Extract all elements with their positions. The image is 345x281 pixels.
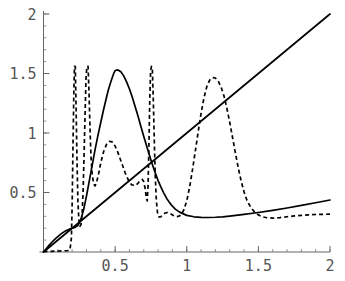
y-tick-label: 1.5 [9,65,36,83]
y-tick-label: 2 [27,6,36,24]
x-axis-tick-labels: 0.511.52 [102,257,335,275]
chart-svg: 0.511.52 0.511.52 [0,0,345,281]
x-tick-label: 0.5 [102,257,129,275]
series-solid-curve [44,70,331,252]
x-tick-label: 2 [325,257,334,275]
y-axis-tick-labels: 0.511.52 [9,6,36,203]
x-tick-label: 1 [182,257,191,275]
series-dashed-curve [44,66,331,251]
axes-group [40,11,331,252]
plot-canvas: 0.511.52 0.511.52 [0,0,345,281]
x-tick-label: 1.5 [245,257,272,275]
y-tick-label: 1 [27,125,36,143]
x-axis-major-ticks [115,246,330,252]
data-series-group [44,14,331,252]
y-tick-label: 0.5 [9,184,36,202]
y-axis-major-ticks [44,14,50,193]
